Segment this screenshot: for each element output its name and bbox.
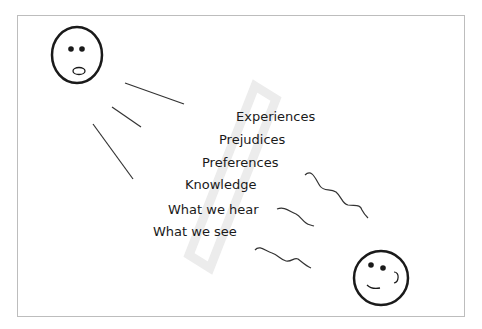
speech-lines-icon xyxy=(93,83,184,179)
wavy-lines-icon xyxy=(255,173,368,268)
layer-label-knowledge: Knowledge xyxy=(185,178,256,191)
smiling-face-icon xyxy=(354,251,408,305)
layer-label-experiences: Experiences xyxy=(236,110,315,123)
surprised-face-icon xyxy=(52,27,102,83)
layer-label-prejudices: Prejudices xyxy=(219,133,285,146)
layer-label-what-we-see: What we see xyxy=(153,225,237,238)
layer-label-preferences: Preferences xyxy=(202,156,278,169)
layer-label-what-we-hear: What we hear xyxy=(168,203,259,216)
